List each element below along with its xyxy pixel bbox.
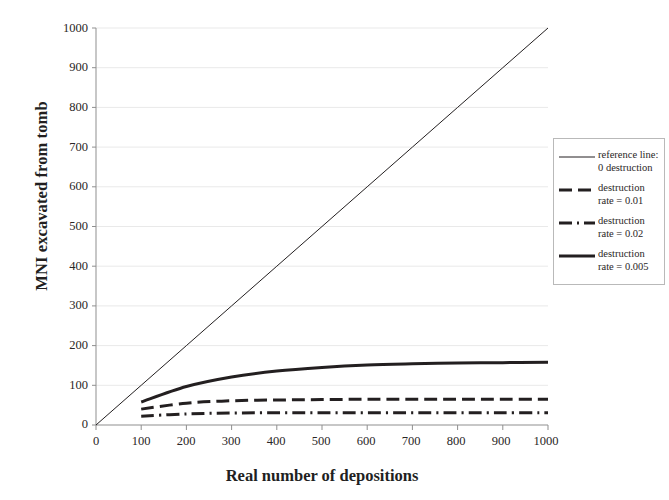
series-line: [141, 362, 548, 402]
gridlines: [96, 28, 548, 385]
legend-swatch-dashed: [558, 183, 596, 197]
legend-label-line2: rate = 0.02: [598, 228, 645, 241]
legend-label-line2: 0 destruction: [598, 162, 658, 175]
legend-swatch-solid-thin: [558, 150, 596, 164]
legend-label-line1: destruction: [598, 182, 645, 195]
legend-label-line1: destruction: [598, 215, 645, 228]
legend-item[interactable]: reference line: 0 destruction: [554, 145, 664, 178]
legend-label-line1: destruction: [598, 248, 649, 261]
series-line: [141, 399, 548, 409]
legend-label-line1: reference line:: [598, 149, 658, 162]
legend-label-line2: rate = 0.01: [598, 195, 645, 208]
legend-label: destruction rate = 0.01: [598, 182, 645, 207]
legend-item[interactable]: destruction rate = 0.005: [554, 244, 664, 277]
legend-item[interactable]: destruction rate = 0.01: [554, 178, 664, 211]
legend-label-line2: rate = 0.005: [598, 261, 649, 274]
chart-legend: reference line: 0 destruction destructio…: [553, 138, 665, 285]
legend-swatch-solid-thick: [558, 249, 596, 263]
legend-label: destruction rate = 0.02: [598, 215, 645, 240]
legend-item[interactable]: destruction rate = 0.02: [554, 211, 664, 244]
legend-label: destruction rate = 0.005: [598, 248, 649, 273]
series-line: [141, 413, 548, 417]
chart-figure: MNI excavated from tomb Real number of d…: [0, 0, 669, 500]
legend-swatch-dash-dot: [558, 216, 596, 230]
legend-label: reference line: 0 destruction: [598, 149, 658, 174]
